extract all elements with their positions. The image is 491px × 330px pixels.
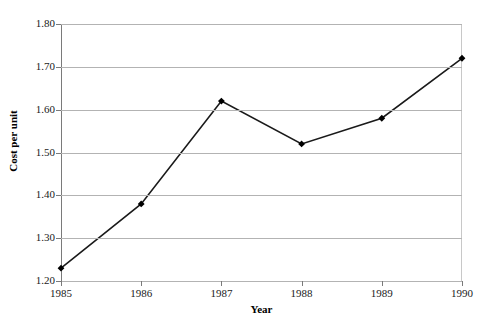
y-axis-tick-label: 1.70 [36, 61, 55, 72]
gridline-y [61, 24, 462, 25]
x-axis-tick-label: 1986 [111, 288, 171, 299]
x-axis-tick-label: 1985 [31, 288, 91, 299]
line-chart: Cost per unit 1.201.301.401.501.601.701.… [0, 0, 491, 330]
y-axis-title-label: Cost per unit [7, 110, 19, 172]
y-axis-tick-label: 1.80 [36, 18, 55, 29]
x-axis-tick-label: 1989 [352, 288, 412, 299]
gridline-y [61, 281, 462, 282]
data-point-marker [298, 141, 305, 148]
y-axis-tick [56, 67, 61, 68]
plot-area [61, 24, 462, 281]
gridline-y [61, 153, 462, 154]
x-axis-tick [382, 281, 383, 286]
x-axis-tick [302, 281, 303, 286]
y-axis-tick [56, 195, 61, 196]
gridline-y [61, 110, 462, 111]
y-axis-tick-label: 1.20 [36, 275, 55, 286]
y-axis-tick-label: 1.30 [36, 232, 55, 243]
gridline-y [61, 195, 462, 196]
y-axis-tick-label: 1.40 [36, 189, 55, 200]
y-axis-title: Cost per unit [4, 0, 22, 281]
x-axis-tick [61, 281, 62, 286]
x-axis-tick [462, 281, 463, 286]
x-axis-title: Year [61, 303, 462, 315]
x-axis-tick [221, 281, 222, 286]
y-axis-tick [56, 153, 61, 154]
y-axis-tick-label: 1.60 [36, 104, 55, 115]
gridline-y [61, 238, 462, 239]
y-axis-tick-label: 1.50 [36, 147, 55, 158]
y-axis-tick-labels: 1.201.301.401.501.601.701.80 [22, 0, 55, 330]
y-axis-tick [56, 110, 61, 111]
x-axis-tick-label: 1990 [432, 288, 491, 299]
y-axis-tick [56, 24, 61, 25]
x-axis-tick-label: 1987 [191, 288, 251, 299]
x-axis-tick [141, 281, 142, 286]
y-axis-tick [56, 238, 61, 239]
gridline-y [61, 67, 462, 68]
x-axis-tick-label: 1988 [272, 288, 332, 299]
series-line [61, 58, 462, 268]
